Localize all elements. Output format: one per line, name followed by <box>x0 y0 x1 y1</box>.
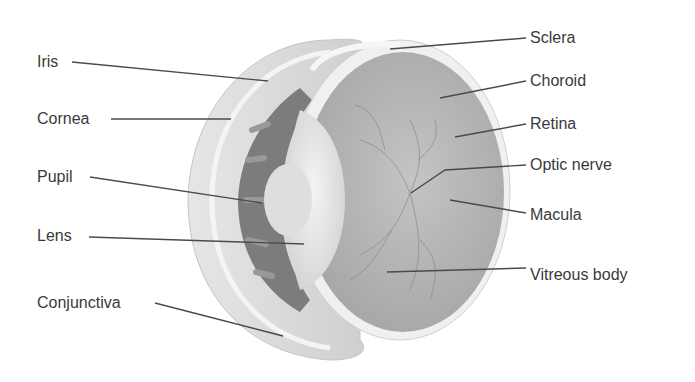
eye-diagram: Iris Cornea Pupil Lens Conjunctiva Scler… <box>0 0 695 382</box>
label-macula: Macula <box>530 206 582 224</box>
label-conjunctiva: Conjunctiva <box>37 294 121 312</box>
leader-iris <box>72 62 268 81</box>
label-retina: Retina <box>530 115 576 133</box>
label-choroid: Choroid <box>530 72 586 90</box>
label-iris: Iris <box>37 53 58 71</box>
label-sclera: Sclera <box>530 29 575 47</box>
eye-illustration <box>0 0 695 382</box>
label-lens: Lens <box>37 227 72 245</box>
label-vitreous-body: Vitreous body <box>530 266 628 284</box>
label-pupil: Pupil <box>37 168 73 186</box>
label-optic-nerve: Optic nerve <box>530 156 612 174</box>
label-cornea: Cornea <box>37 110 89 128</box>
